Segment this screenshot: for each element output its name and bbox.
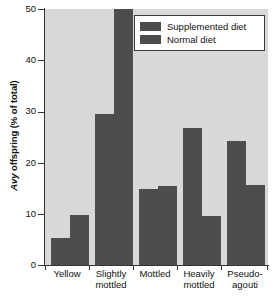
- legend-entry-supplemented-diet: Supplemented diet: [140, 20, 259, 33]
- bar-slightly-mottled-normal: [114, 9, 133, 265]
- y-tick-label-30: 30: [6, 106, 36, 116]
- bar-pseudo-agouti-supplemented: [227, 141, 246, 265]
- y-tick-label-50: 50: [6, 4, 36, 14]
- x-tick-label-pseudo-agouti: Pseudo- agouti: [221, 269, 269, 290]
- x-tick-label-heavily-mottled: Heavily mottled: [177, 269, 221, 290]
- x-tick-label-slightly-mottled-line2: mottled: [89, 280, 133, 291]
- y-tick-label-40: 40: [6, 55, 36, 65]
- bar-group-slightly-mottled: [93, 9, 134, 265]
- bar-slightly-mottled-supplemented: [95, 114, 114, 265]
- legend-entry-normal-diet: Normal diet: [140, 33, 259, 46]
- y-tick-label-0: 0: [6, 260, 36, 270]
- legend: Supplemented diet Normal diet: [134, 15, 265, 51]
- bar-pseudo-agouti-normal: [246, 185, 265, 265]
- x-tick-label-mottled: Mottled: [133, 269, 177, 280]
- x-tick-label-pseudo-agouti-line1: Pseudo-: [221, 269, 269, 280]
- x-tick-label-slightly-mottled: Slightly mottled: [89, 269, 133, 290]
- x-tick-label-slightly-mottled-line1: Slightly: [89, 269, 133, 280]
- x-tick-label-yellow-line1: Yellow: [45, 269, 89, 280]
- bar-yellow-supplemented: [51, 238, 70, 265]
- bar-group-yellow: [49, 9, 90, 265]
- x-tick-label-mottled-line1: Mottled: [133, 269, 177, 280]
- legend-label-normal-diet: Normal diet: [167, 35, 216, 45]
- x-tick-label-yellow: Yellow: [45, 269, 89, 280]
- legend-swatch-supplemented-diet: [140, 22, 161, 31]
- x-axis-line: [44, 265, 269, 266]
- bar-mottled-supplemented: [139, 189, 158, 265]
- bar-chart-figure: Avy offspring (% of total) 50 40 30 20 1…: [0, 0, 273, 306]
- bar-yellow-normal: [70, 215, 89, 265]
- x-tick-label-heavily-mottled-line1: Heavily: [177, 269, 221, 280]
- bar-mottled-normal: [158, 186, 177, 265]
- y-tick-label-20: 20: [6, 158, 36, 168]
- bar-heavily-mottled-supplemented: [183, 128, 202, 265]
- legend-swatch-normal-diet: [140, 35, 161, 44]
- y-tick-label-10: 10: [6, 209, 36, 219]
- x-tick-label-pseudo-agouti-line2: agouti: [221, 280, 269, 291]
- y-axis-title-italic: Avy: [8, 174, 19, 191]
- legend-label-supplemented-diet: Supplemented diet: [167, 22, 246, 32]
- bar-heavily-mottled-normal: [202, 216, 221, 265]
- x-tick-label-heavily-mottled-line2: mottled: [177, 280, 221, 291]
- y-axis-title: Avy offspring (% of total): [8, 36, 19, 236]
